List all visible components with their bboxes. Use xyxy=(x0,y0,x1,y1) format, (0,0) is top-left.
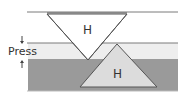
light-band xyxy=(28,43,178,59)
lower-indenter-label: H xyxy=(113,67,122,81)
down-arrow-icon xyxy=(20,36,24,44)
press-diagram: Press H H xyxy=(0,0,189,97)
up-arrow-icon xyxy=(20,60,24,68)
upper-indenter-label: H xyxy=(83,23,92,37)
press-label: Press xyxy=(8,45,37,58)
